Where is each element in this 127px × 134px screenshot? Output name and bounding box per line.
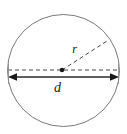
circle-diagram-canvas — [0, 0, 127, 134]
radius-label: r — [72, 42, 78, 55]
diameter-arrowhead-right — [110, 73, 119, 81]
dashed-radius-line — [62, 41, 107, 70]
center-dot — [60, 68, 65, 73]
diameter-label: d — [54, 81, 61, 95]
diameter-arrowhead-left — [8, 73, 17, 81]
circle-diagram-figure: r d — [0, 0, 127, 134]
